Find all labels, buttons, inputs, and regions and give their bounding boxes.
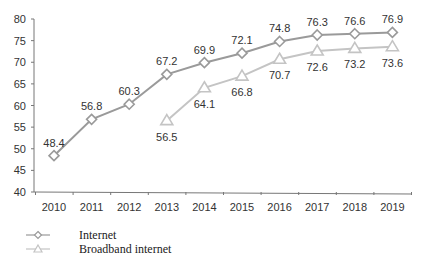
y-tick-label: 60 [14,100,26,112]
x-tick-label: 2016 [267,201,291,213]
data-label: 64.1 [194,98,215,110]
data-label: 72.1 [231,34,252,46]
diamond-marker [199,58,209,68]
data-label: 66.8 [231,86,252,98]
data-label: 69.9 [194,44,215,56]
y-tick-label: 80 [14,13,26,25]
data-label: 70.7 [269,69,290,81]
data-label: 48.4 [43,137,64,149]
x-tick-label: 2015 [230,201,254,213]
data-label: 56.5 [156,131,177,143]
x-tick-label: 2010 [42,201,66,213]
data-label: 67.2 [156,55,177,67]
y-tick-label: 65 [14,78,26,90]
x-axis: 2010201120122013201420152016201720182019 [34,192,412,213]
legend-label: Internet [79,228,117,242]
x-tick-label: 2017 [305,201,329,213]
series-internet: 48.456.860.367.269.972.174.876.376.676.9 [43,13,403,160]
y-tick-label: 75 [14,35,26,47]
diamond-marker [350,29,360,39]
diamond-marker [312,30,322,40]
line-chart: 4045505560657075802010201120122013201420… [0,0,425,267]
data-label: 73.2 [344,58,365,70]
y-tick-label: 40 [14,186,26,198]
legend-item: Internet [26,228,117,242]
data-label: 72.6 [306,61,327,73]
data-label: 76.9 [382,13,403,25]
data-label: 56.8 [81,100,102,112]
x-tick-label: 2011 [80,201,104,213]
x-tick-label: 2013 [155,201,179,213]
legend-item: Broadband internet [26,242,172,256]
data-label: 73.6 [382,57,403,69]
data-label: 76.6 [344,15,365,27]
x-tick-label: 2014 [192,201,216,213]
y-tick-label: 55 [14,121,26,133]
triangle-marker [386,41,398,51]
data-label: 60.3 [118,85,139,97]
legend: InternetBroadband internet [26,228,172,256]
series-broadband-internet: 56.564.166.870.772.673.273.6 [156,41,403,143]
data-label: 76.3 [306,16,327,28]
y-tick-label: 50 [14,143,26,155]
legend-label: Broadband internet [79,242,172,256]
x-tick-label: 2019 [380,201,404,213]
x-tick-label: 2012 [117,201,141,213]
y-tick-label: 45 [14,164,26,176]
diamond-icon [35,232,42,239]
diamond-marker [387,27,397,37]
y-axis: 404550556065707580 [14,13,34,198]
y-tick-label: 70 [14,56,26,68]
diamond-marker [237,48,247,58]
diamond-marker [275,36,285,46]
x-tick-label: 2018 [343,201,367,213]
data-label: 74.8 [269,22,290,34]
